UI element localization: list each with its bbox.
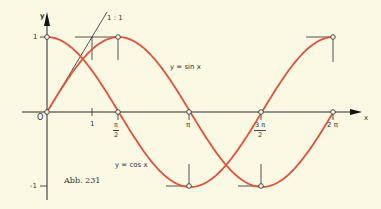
x-axis-arrow-icon xyxy=(350,109,362,115)
x-axis-label: x xyxy=(364,115,368,122)
x-tick-pi-half: π 2 xyxy=(113,122,119,138)
cos-curve-label: y = cos x xyxy=(115,162,148,169)
x-tick-2pi: 2 π xyxy=(327,122,338,129)
y-tick-minus-1: -1 xyxy=(30,183,37,190)
y-axis-label: y xyxy=(40,13,45,20)
x-tick-3pi-half: 3 π 2 xyxy=(254,122,266,138)
y-tick-1: 1 xyxy=(33,34,37,41)
origin-label: O xyxy=(37,114,43,122)
slope-label: 1 : 1 xyxy=(107,15,123,22)
figure-caption: Abb. 231 xyxy=(64,176,100,185)
sin-curve-label: y = sin x xyxy=(170,64,201,71)
x-tick-pi: π xyxy=(186,122,190,129)
x-tick-1: 1 xyxy=(90,121,94,128)
sin-cos-diagram xyxy=(0,0,381,209)
